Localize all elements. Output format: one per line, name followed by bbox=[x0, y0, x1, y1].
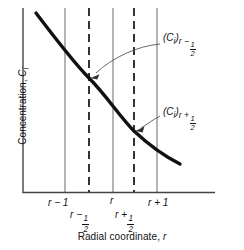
tick-var: r bbox=[148, 197, 151, 208]
tick-operator: + bbox=[154, 197, 160, 208]
fraction-denominator: 2 bbox=[190, 50, 196, 58]
fraction-numerator: 1 bbox=[82, 215, 89, 225]
tick-label-r-minus-1: r − 1 bbox=[48, 198, 68, 208]
tick-var: r bbox=[115, 209, 118, 220]
annotation-c-i-r-plus-half: (Ci)r +12 bbox=[163, 107, 196, 129]
tick-number: 1 bbox=[63, 197, 69, 208]
fraction-numerator: 1 bbox=[127, 215, 134, 225]
y-axis-title-subscript: i bbox=[21, 68, 31, 70]
annotation-sub-var: r bbox=[179, 110, 182, 120]
annotation-subscript-expression: r −12 bbox=[179, 36, 197, 46]
concentration-curve bbox=[36, 13, 180, 164]
annotation-c-i-r-minus-half: (Ci)r −12 bbox=[163, 33, 196, 55]
annotation-subscript-expression: r +12 bbox=[179, 110, 197, 120]
fraction-one-half: 12 bbox=[82, 215, 89, 233]
tick-var: r bbox=[48, 197, 51, 208]
tick-label-r-plus-half: r +12 bbox=[115, 210, 135, 234]
annotation-symbol: C bbox=[166, 106, 173, 117]
y-axis-title-var: C bbox=[17, 70, 28, 77]
tick-label-r: r bbox=[110, 196, 113, 206]
fraction-one-half: 12 bbox=[190, 41, 196, 58]
leader-line-upper bbox=[96, 44, 160, 73]
tick-var: r bbox=[110, 195, 113, 206]
fraction-denominator: 2 bbox=[190, 124, 196, 132]
fraction-denominator: 2 bbox=[127, 225, 134, 234]
tick-var: r bbox=[70, 209, 73, 220]
annotation-sub-operator: − bbox=[184, 36, 189, 46]
tick-operator: − bbox=[54, 197, 60, 208]
y-axis-title-text: Concentration, bbox=[17, 77, 28, 145]
tick-number: 1 bbox=[163, 197, 169, 208]
x-axis-title-var: r bbox=[163, 231, 166, 242]
y-axis-title: Concentration, Ci bbox=[18, 26, 30, 186]
fraction-denominator: 2 bbox=[82, 225, 89, 234]
annotation-sub-operator: + bbox=[184, 110, 189, 120]
tick-operator: − bbox=[76, 209, 82, 220]
fraction-one-half: 12 bbox=[190, 115, 196, 132]
tick-operator: + bbox=[121, 209, 127, 220]
tick-label-r-minus-half: r −12 bbox=[70, 210, 90, 234]
fraction-one-half: 12 bbox=[127, 215, 134, 233]
concentration-profile-figure: Concentration, Ci Radial coordinate, r r… bbox=[0, 0, 244, 250]
annotation-sub-var: r bbox=[179, 36, 182, 46]
annotation-symbol: C bbox=[166, 32, 173, 43]
tick-label-r-plus-1: r + 1 bbox=[148, 198, 168, 208]
